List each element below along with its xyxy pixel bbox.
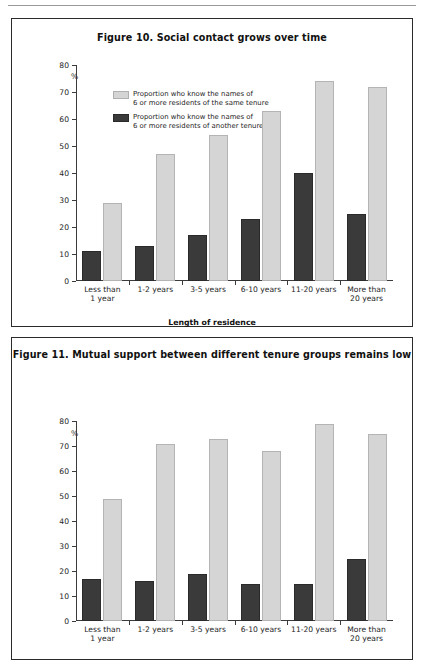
x-axis-category-label: 11-20 years [287,625,340,634]
top-divider-rule [8,5,416,6]
y-axis-tick [72,146,76,147]
bar-group [235,421,288,621]
y-axis-tick-label: 80 [59,61,69,70]
bar [315,81,334,281]
y-axis-tick [72,546,76,547]
bar [368,87,387,281]
bar [103,203,122,281]
y-axis-tick [72,281,76,282]
y-axis-tick [72,92,76,93]
bar [103,499,122,622]
x-axis-category-label: 6-10 years [235,285,288,294]
x-axis-category-label: 1-2 years [129,285,182,294]
figure-10-plot-area: 01020304050607080 [76,65,393,281]
bar [241,219,260,281]
bar [188,235,207,281]
bar [347,214,366,282]
y-axis-tick [72,227,76,228]
x-axis-category-label: 6-10 years [235,625,288,634]
bar [368,434,387,622]
y-axis-tick-label: 20 [59,223,69,232]
figure-10-panel: Figure 10. Social contact grows over tim… [11,18,413,327]
bar-group [76,65,129,281]
y-axis-tick-label: 0 [64,277,69,286]
bar-group [235,65,288,281]
bar [262,451,281,621]
y-axis-tick-label: 50 [59,492,69,501]
figures-page: Figure 10. Social contact grows over tim… [0,0,424,669]
bar [188,574,207,622]
x-axis-category-label: Less than 1 year [76,625,129,644]
y-axis-tick-label: 30 [59,542,69,551]
y-axis-tick-label: 10 [59,592,69,601]
x-axis-category-label: 11-20 years [287,285,340,294]
figure-11-plot-area: 01020304050607080 [76,421,393,621]
bar [347,559,366,622]
y-axis-tick-label: 70 [59,442,69,451]
y-axis-tick [72,119,76,120]
figure-10-x-axis-caption: Length of residence [12,318,412,327]
bar [262,111,281,281]
y-axis-tick [72,200,76,201]
y-axis-tick-label: 40 [59,517,69,526]
y-axis-tick-label: 80 [59,417,69,426]
x-axis-category-label: More than 20 years [340,285,393,304]
bar [294,584,313,622]
y-axis-tick-label: 30 [59,196,69,205]
y-axis-tick [72,65,76,66]
y-axis-tick [72,496,76,497]
x-axis-category-label: 1-2 years [129,625,182,634]
x-axis-category-label: 3-5 years [182,285,235,294]
bar [82,251,101,281]
bar [135,581,154,621]
y-axis-tick-label: 10 [59,250,69,259]
bar [156,444,175,622]
y-axis-tick [72,521,76,522]
y-axis-tick [72,471,76,472]
x-axis-category-label: 3-5 years [182,625,235,634]
figure-10-bars [76,65,393,281]
y-axis-tick-label: 20 [59,567,69,576]
y-axis-tick [72,571,76,572]
y-axis-tick-label: 60 [59,115,69,124]
x-axis-category-label: More than 20 years [340,625,393,644]
figure-11-title: Figure 11. Mutual support between differ… [12,349,412,362]
bar [294,173,313,281]
figure-11-bars [76,421,393,621]
bar-group [129,421,182,621]
bar [241,584,260,622]
y-axis-tick [72,421,76,422]
bar [315,424,334,622]
y-axis-tick-label: 0 [64,617,69,626]
bar-group [340,421,393,621]
y-axis-tick-label: 40 [59,169,69,178]
y-axis-tick [72,173,76,174]
figure-10-title: Figure 10. Social contact grows over tim… [12,32,412,45]
bar [209,135,228,281]
bar-group [287,421,340,621]
bar-group [76,421,129,621]
bar [156,154,175,281]
bar-group [182,421,235,621]
bar [82,579,101,622]
bar [135,246,154,281]
bar [209,439,228,622]
y-axis-tick [72,446,76,447]
figure-11-panel: Figure 11. Mutual support between differ… [11,337,413,660]
y-axis-tick-label: 50 [59,142,69,151]
x-axis-category-label: Less than 1 year [76,285,129,304]
y-axis-tick-label: 60 [59,467,69,476]
bar-group [287,65,340,281]
y-axis-tick [72,596,76,597]
bar-group [340,65,393,281]
bar-group [129,65,182,281]
y-axis-tick [72,621,76,622]
bar-group [182,65,235,281]
y-axis-tick [72,254,76,255]
y-axis-tick-label: 70 [59,88,69,97]
